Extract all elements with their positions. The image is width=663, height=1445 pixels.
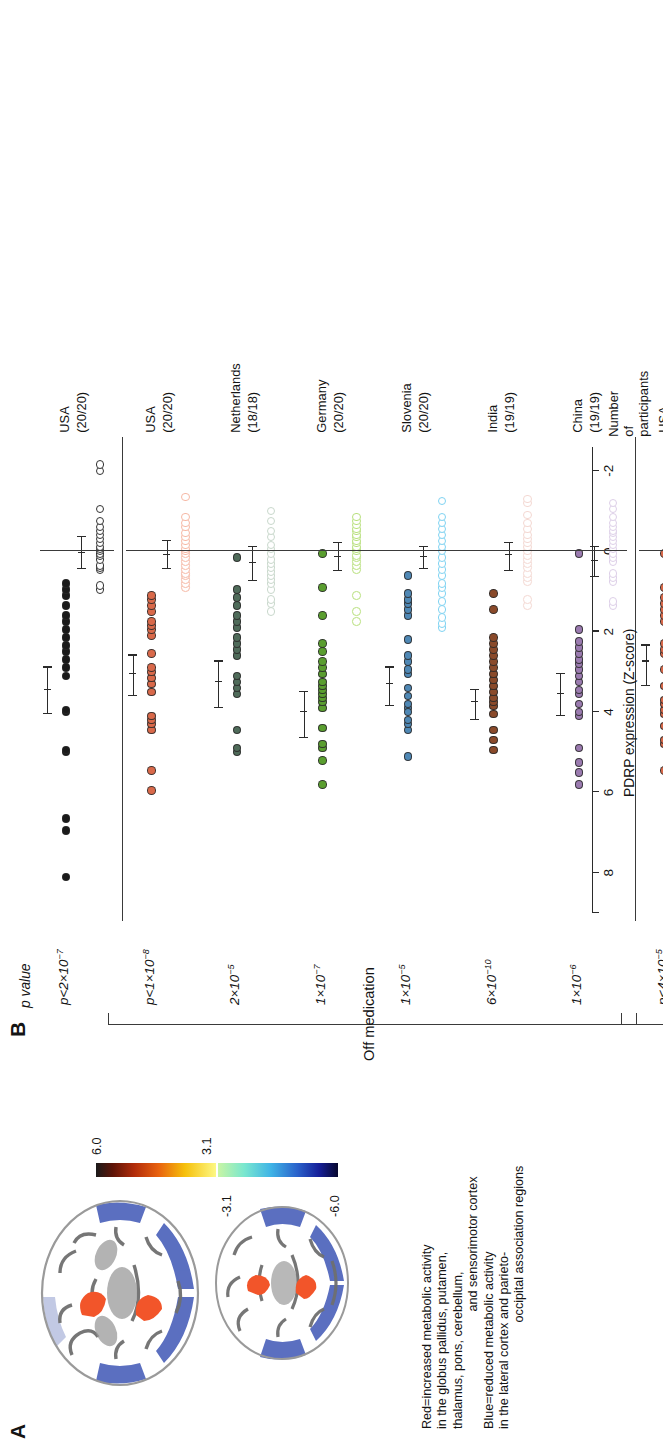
error-bar-control <box>81 537 82 569</box>
value-axis-tick-label: 6 <box>601 777 616 807</box>
panel-a-legend: Red=increased metabolic activity in the … <box>420 1059 528 1429</box>
data-point-control <box>523 519 532 528</box>
error-bar-patient <box>304 692 305 738</box>
participants-axis-label: Number of participants <box>606 371 651 437</box>
error-bar-control-mean <box>591 560 598 561</box>
cohort-label: Germany <box>314 380 329 433</box>
error-bar-patient <box>218 662 219 708</box>
cohort-participants: (20/20) <box>160 392 175 433</box>
cohort-label: China <box>570 399 585 433</box>
p-value-label: 1×10−5 <box>398 964 413 1005</box>
cohort-label: USA <box>656 406 663 433</box>
data-point-patient <box>575 780 584 789</box>
cohort-participants: (19/19) <box>502 392 517 433</box>
data-point-patient <box>404 571 413 580</box>
data-point-control <box>267 517 276 526</box>
error-bar-patient <box>133 656 134 696</box>
data-point-control <box>267 607 276 616</box>
figure-root: A <box>0 0 663 1445</box>
colorbar-label-neg-3-1: -3.1 <box>220 1195 234 1217</box>
data-point-patient <box>147 649 156 658</box>
data-point-patient <box>62 633 71 642</box>
error-bar-patient-cap-low <box>385 705 394 706</box>
cohort-participants: (20/20) <box>416 392 431 433</box>
legend-line-4: and sensorimotor cortex <box>466 1059 481 1429</box>
value-axis-tick <box>592 872 599 873</box>
data-point-patient <box>489 746 498 755</box>
error-bar-control-mean <box>249 562 256 563</box>
value-axis-tick-label: -2 <box>601 456 616 486</box>
error-bar-control <box>167 541 168 569</box>
cohort-label: Slovenia <box>399 383 414 432</box>
data-point-control <box>438 613 447 622</box>
data-point-patient <box>318 678 327 687</box>
cohort-label: USA <box>57 406 72 433</box>
data-point-control <box>609 597 618 606</box>
error-bar-control-cap-low <box>333 570 342 571</box>
data-point-patient <box>489 726 498 735</box>
p-value-label: p<1×10−8 <box>142 949 157 1005</box>
error-bar-control-mean <box>420 556 427 557</box>
data-point-patient <box>575 744 584 753</box>
y-axis-title: PDRP expression (Z-score) <box>622 629 637 797</box>
data-point-control <box>438 605 447 614</box>
error-bar-control-cap-low <box>590 576 599 577</box>
data-point-patient <box>575 758 584 767</box>
p-value-label: p<2×10−7 <box>56 949 71 1005</box>
data-point-patient <box>62 579 71 588</box>
cohort-label: USA <box>143 406 158 433</box>
group-label: Off medication <box>361 967 377 1061</box>
data-point-patient <box>318 647 327 656</box>
data-point-patient <box>62 655 71 664</box>
error-bar-control-cap-high <box>419 546 428 547</box>
error-bar-patient-mean <box>215 681 222 682</box>
data-point-patient <box>318 780 327 789</box>
panel-a: A <box>0 1045 663 1445</box>
value-axis-tick-label: 2 <box>601 617 616 647</box>
error-bar-control-cap-low <box>77 568 86 569</box>
data-point-patient <box>318 657 327 666</box>
error-bar-control-cap-low <box>248 580 257 581</box>
error-bar-patient <box>475 690 476 720</box>
error-bar-patient-mean <box>129 673 136 674</box>
group-brace <box>621 1013 663 1025</box>
plot-area: 86420-2p<2×10−7USA(20/20)p<1×10−8USA(20/… <box>0 0 663 1041</box>
error-bar-patient-mean <box>557 693 564 694</box>
data-point-patient <box>318 756 327 765</box>
data-point-patient <box>147 591 156 600</box>
data-point-patient <box>489 736 498 745</box>
data-point-patient <box>404 635 413 644</box>
data-point-control <box>267 507 276 516</box>
data-point-patient <box>318 724 327 733</box>
error-bar-patient-cap-low <box>43 713 52 714</box>
error-bar-patient-cap-high <box>128 654 137 655</box>
error-bar-control-cap-high <box>77 536 86 537</box>
error-bar-control <box>509 543 510 571</box>
data-point-patient <box>62 601 71 610</box>
cohort-participants: (20/20) <box>331 392 346 433</box>
error-bar-patient-cap-low <box>128 695 137 696</box>
cohort-participants: (19/19) <box>587 392 602 433</box>
error-bar-control <box>252 547 253 581</box>
error-bar-control-cap-high <box>333 542 342 543</box>
cohort-label: India <box>485 405 500 433</box>
error-bar-patient-cap-high <box>43 666 52 667</box>
colorbar-negative <box>218 1163 338 1177</box>
data-point-patient <box>62 873 71 882</box>
data-point-patient <box>147 617 156 626</box>
error-bar-patient-cap-low <box>556 715 565 716</box>
participants-line-1: Number <box>606 371 621 437</box>
p-value-label: 6×10−10 <box>484 959 499 1005</box>
error-bar-control-cap-high <box>162 540 171 541</box>
error-bar-control-cap-low <box>162 568 171 569</box>
error-bar-patient-mean <box>386 683 393 684</box>
error-bar-control-mean <box>334 556 341 557</box>
error-bar-patient-cap-low <box>214 707 223 708</box>
colorbar-positive <box>96 1163 216 1177</box>
p-value-label: p<4×10−5 <box>655 949 663 1005</box>
data-point-patient <box>233 601 242 610</box>
error-bar-patient-mean <box>471 701 478 702</box>
zero-reference-line <box>40 550 114 551</box>
error-bar-control-mean <box>78 552 85 553</box>
data-point-control <box>438 597 447 606</box>
